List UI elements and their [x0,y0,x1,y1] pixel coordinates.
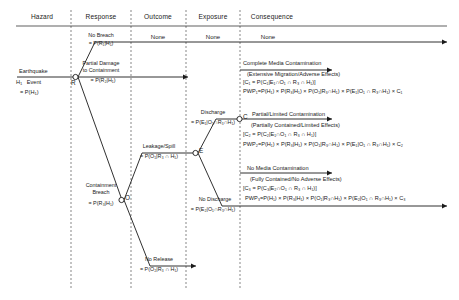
branch-leakage-spill-path [124,153,196,200]
consequence-formula-3: PWP₃=P(H₁) × P(R₃|H₁) × P(O₁|R₃∩H₁) × P(… [245,196,406,202]
branch-prob-discharge: = P(E₁|O₁∩R₃∩H₁) [191,120,235,126]
node-label-R: R [71,80,76,87]
node-label-O: O [125,195,130,202]
column-header-response: Response [86,14,117,21]
consequence-title-2: Partial/Limited Contamination [252,112,325,118]
hazard-name: Earthquake [19,69,48,75]
branch-label-no-release: No Release [145,257,173,263]
hazard-event-subscript: 1 [20,81,22,86]
branch-label-leakage-spill: Leakage/Spill [143,144,175,150]
column-header-hazard: Hazard [31,14,53,21]
none-label-consequence: None [261,34,275,40]
consequence-subtitle-2: (Partially Contained/Limited Effects) [251,123,340,129]
branch-label-partial-damage: Partial Damage [82,61,119,67]
hazard-probability-text: = P(H [20,89,34,95]
tree-branches [17,42,447,266]
event-tree-diagram: Hazard Response Outcome Exposure Consequ… [0,0,459,300]
branch-prob-no-breach: = P(R₁|H₁) [89,41,114,47]
branch-prob-no-release: = P(O₂|R₃ ∩ H₁) [140,267,178,273]
column-header-exposure: Exposure [198,14,227,21]
branch-prob-containment-breach: = P(R₃|H₁) [88,201,113,207]
node-label-E: E [199,148,203,155]
hazard-event-word: Event [27,79,41,85]
branch-label-discharge: Discharge [201,110,225,116]
hazard-event-line: H1 Event [16,80,41,86]
column-header-outcome: Outcome [144,14,172,21]
consequence-definition-3: [C₃ = P(C₃|E₂∩O₁ ∩ R₃ ∩ H₁)] [243,186,317,192]
node-circle-C[interactable] [237,116,242,121]
branch-prob-no-discharge: = P(E₂|O₁∩R₃∩H₁) [191,207,235,213]
diagram-lines-layer [0,0,459,300]
consequence-definition-2: [C₂ = P(C₂|E₁∩O₁ ∩ R₃ ∩ H₁)] [243,132,316,138]
consequence-title-3: No Media Contamination [247,166,309,172]
branch-label-partial-damage-line2: to Containment [83,68,120,74]
node-label-C: C [243,114,248,121]
none-label-outcome: None [151,34,165,40]
node-circle-E[interactable] [193,150,198,155]
consequence-subtitle-1: (Extensive Migration/Adverse Effects) [247,72,340,78]
consequence-definition-1: [C₁ = P(C₁|E₁∩O₁ ∩ R₃ ∩ H₁)] [243,80,316,86]
branch-label-containment-breach-line2: Breach [92,190,109,196]
branch-prob-partial-damage: = P(R₂|H₁) [91,78,116,84]
branch-prob-leakage-spill: = P(O₁|R₃ ∩ H₁) [140,154,178,160]
none-label-exposure: None [206,34,220,40]
branch-label-no-breach: No Breach [88,33,113,39]
branch-label-containment-breach: Containment [86,183,117,189]
consequence-title-1: Complete Media Contamination [243,61,321,67]
consequence-formula-2: PWP₂=P(H₁) × P(R₃|H₁) × P(O₁|R₃∩H₁) × P(… [243,142,403,148]
hazard-event-symbol: H1 [16,79,22,85]
branch-label-no-discharge: No Discharge [199,197,232,203]
node-circle-O[interactable] [119,197,124,202]
column-header-consequence: Consequence [251,14,293,21]
hazard-probability-tail: ) [37,89,39,95]
consequence-formula-1: PWP₁=P(H₁) × P(R₃|H₁) × P(O₁|R₃∩H₁) × P(… [243,89,402,95]
hazard-probability: = P(H1) [20,90,39,96]
consequence-subtitle-3: (Fully Contained/No Adverse Effects) [250,177,342,183]
